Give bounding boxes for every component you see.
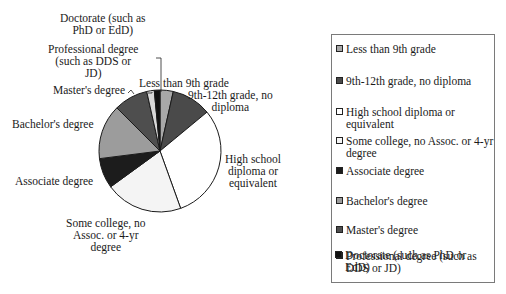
pie-label-high-school: High school diploma or equivalent (225, 153, 281, 189)
legend-item: Bachelor's degree (336, 195, 494, 207)
pie-label-associate: Associate degree (15, 175, 93, 187)
legend-item: Associate degree (336, 165, 494, 177)
legend: Less than 9th grade 9th-12th grade, no d… (331, 34, 495, 283)
legend-swatch (336, 137, 343, 144)
legend-item: High school diploma or equivalent (336, 106, 494, 130)
legend-swatch (336, 45, 343, 52)
legend-swatch (336, 167, 343, 174)
pie-label-professional: Professional degree (such as DDS or JD) (48, 43, 138, 79)
legend-swatch (336, 108, 343, 115)
pie-label-some-college: Some college, no Assoc. or 4-yr degree (66, 217, 146, 253)
legend-item: Some college, no Assoc. or 4-yr degree (336, 135, 494, 159)
pie-label-less-than-9th: Less than 9th grade (139, 77, 229, 89)
legend-swatch (336, 226, 343, 233)
legend-item: Less than 9th grade (336, 43, 494, 55)
legend-swatch (336, 77, 343, 84)
pie-label-9th-12th: 9th-12th grade, no diploma (188, 89, 273, 113)
legend-swatch (335, 251, 342, 258)
legend-swatch (336, 197, 343, 204)
legend-item: 9th-12th grade, no diploma (336, 75, 494, 87)
pie-label-masters: Master's degree (53, 84, 125, 96)
legend-item: Doctorate (such as PhD or EdD) (335, 249, 493, 273)
leader-line-masters (128, 90, 134, 94)
pie-label-doctorate: Doctorate (such as PhD or EdD) (60, 12, 146, 36)
legend-item: Master's degree (336, 224, 494, 236)
pie-label-bachelors: Bachelor's degree (12, 118, 94, 130)
